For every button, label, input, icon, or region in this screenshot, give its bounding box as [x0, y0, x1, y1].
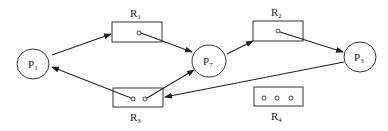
svg-text:R4: R4 — [271, 110, 282, 124]
resource-subscript-r2: 2 — [278, 12, 282, 20]
resource-subscript-r1: 1 — [137, 13, 141, 21]
instance-dot — [131, 97, 135, 101]
svg-text:P1: P1 — [28, 58, 38, 72]
resource-allocation-graph: P1 P7 P3 R1 R2 R3 R4 — [0, 0, 388, 131]
instance-dot — [275, 96, 279, 100]
resource-subscript-r3: 3 — [137, 117, 141, 125]
instance-dot — [137, 31, 141, 35]
process-node-p7: P7 — [192, 45, 226, 77]
svg-text:R1: R1 — [130, 7, 141, 21]
edge-p7-to-r2 — [227, 41, 253, 54]
resource-node-r2: R2 — [253, 6, 303, 41]
process-node-p3: P3 — [344, 42, 376, 72]
process-subscript-p3: 3 — [360, 57, 364, 65]
edge-p1-to-r1 — [52, 34, 111, 55]
resource-node-r4: R4 — [254, 87, 303, 124]
instance-dot — [143, 97, 147, 101]
instance-dot — [289, 96, 293, 100]
svg-text:R2: R2 — [271, 6, 282, 20]
instance-dot — [262, 96, 266, 100]
svg-text:R3: R3 — [130, 111, 141, 125]
svg-text:P3: P3 — [354, 51, 364, 65]
process-node-p1: P1 — [17, 49, 49, 79]
process-subscript-p1: 1 — [34, 64, 38, 72]
resource-subscript-r4: 4 — [278, 116, 282, 124]
svg-text:P7: P7 — [203, 55, 213, 69]
edge-r3-to-p1 — [52, 67, 131, 98]
edge-r2-to-p3 — [280, 32, 343, 52]
process-subscript-p7: 7 — [209, 61, 213, 69]
resource-node-r1: R1 — [112, 7, 162, 42]
edge-r3-to-p7 — [147, 70, 194, 98]
instance-dot — [276, 29, 280, 33]
